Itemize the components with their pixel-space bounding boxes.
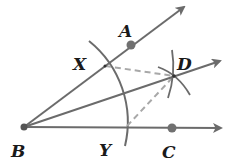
point-a xyxy=(127,41,136,50)
label-b: B xyxy=(10,141,25,161)
ray-bc xyxy=(24,127,221,128)
point-x xyxy=(104,65,107,68)
label-c: C xyxy=(162,142,176,162)
label-x: X xyxy=(72,54,87,74)
label-a: A xyxy=(117,21,132,41)
point-d xyxy=(172,74,176,78)
point-c xyxy=(168,124,177,133)
point-b xyxy=(21,124,28,131)
label-y: Y xyxy=(99,140,113,160)
label-d: D xyxy=(176,54,192,74)
angle-bisector-diagram: A B C D X Y xyxy=(0,0,225,165)
